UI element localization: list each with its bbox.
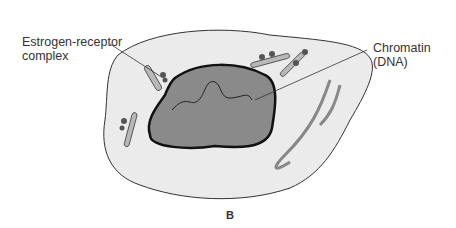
label-line-1: Estrogen-receptor — [22, 35, 122, 49]
label-line-2: (DNA) — [373, 55, 431, 69]
label-line-2: complex — [22, 49, 122, 63]
label-estrogen-receptor: Estrogen-receptor complex — [22, 35, 122, 63]
label-line-1: Chromatin — [373, 41, 431, 55]
label-chromatin: Chromatin (DNA) — [373, 41, 431, 69]
panel-label: B — [226, 208, 234, 222]
